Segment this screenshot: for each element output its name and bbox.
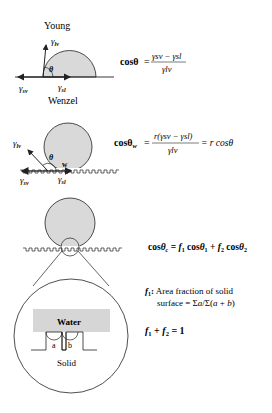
young-eq-lhs: cosθ (120, 56, 139, 67)
young-diagram: Young θ γlv γsv γsl (15, 20, 114, 94)
cassie-diagram: Water a b Solid (14, 198, 138, 393)
cassie-equations: cosθc = f1 cosθ1 + f2 cosθ2 f1: Area fra… (145, 242, 247, 337)
wenzel-gamma-sv-label: γsv (20, 175, 29, 186)
water-label: Water (57, 317, 81, 327)
gamma-lv-label: γlv (51, 36, 59, 47)
wenzel-eq-lhs: cosθw (114, 137, 138, 149)
f1-definition-line1: f1: Area fraction of solid (145, 286, 233, 297)
wenzel-equation: cosθw = r(γsv − γsl) γlv = r cosθ (114, 131, 234, 155)
wenzel-title: Wenzel (48, 95, 78, 106)
young-eq-denominator: γlv (162, 64, 172, 74)
young-eq-numerator: γsv − γsl (152, 51, 182, 61)
cassie-droplet (45, 198, 95, 248)
a-label: a (52, 341, 56, 350)
wenzel-eq-rhs: = r cosθ (201, 138, 234, 148)
w-label: w (62, 160, 68, 169)
gamma-sv-label: γsv (19, 83, 28, 94)
wenzel-eq-equals: = (144, 137, 150, 148)
fraction-sum-equation: f1 + f2 = 1 (145, 325, 185, 337)
wenzel-eq-numerator: r(γsv − γsl) (154, 131, 193, 141)
wetting-models-figure: Young θ γlv γsv γsl cosθ = γsv − γsl γlv… (0, 0, 272, 413)
wenzel-eq-denominator: γlv (168, 145, 178, 155)
young-title: Young (44, 20, 70, 31)
figure-caption-truncated (0, 404, 272, 413)
gamma-sl-label: γsl (58, 82, 66, 93)
solid-label: Solid (57, 358, 77, 368)
young-equation: cosθ = γsv − γsl γlv (120, 51, 186, 74)
f1-definition-line2: surface = Σa/Σ(a + b) (157, 298, 235, 308)
young-eq-equals: = (144, 56, 150, 67)
wenzel-gamma-lv-label: γlv (13, 138, 21, 149)
wenzel-diagram: θ w γlv γsv γsl (13, 123, 124, 186)
inset-circle (14, 279, 128, 393)
cassie-equation: cosθc = f1 cosθ1 + f2 cosθ2 (148, 242, 247, 253)
b-label: b (68, 341, 72, 350)
